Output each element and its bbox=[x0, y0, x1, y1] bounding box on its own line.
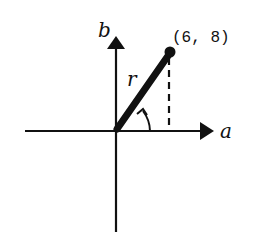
point-label: (6, 8) bbox=[172, 29, 230, 47]
vector-label: r bbox=[127, 67, 138, 91]
polar-diagram: b a r (6, 8) bbox=[0, 0, 261, 245]
vector-r bbox=[117, 53, 170, 129]
point-marker bbox=[165, 47, 176, 58]
horizontal-axis-arrow-icon bbox=[200, 122, 214, 140]
horizontal-axis-label: a bbox=[220, 119, 232, 143]
angle-arrow-icon bbox=[137, 109, 147, 115]
vertical-axis-label: b bbox=[98, 18, 111, 42]
